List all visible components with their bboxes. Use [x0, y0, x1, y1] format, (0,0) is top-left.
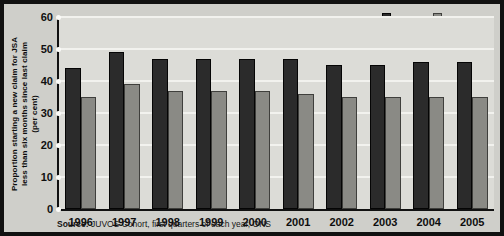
chart-figure: Proportion starting a new claim for JSA …	[0, 0, 504, 236]
figure-border	[0, 0, 504, 236]
